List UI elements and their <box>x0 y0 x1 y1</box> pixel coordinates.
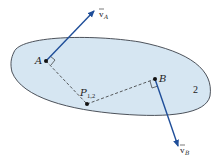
point-p12 <box>85 102 89 106</box>
point-b <box>153 77 157 81</box>
rigid-body-2 <box>11 37 210 115</box>
label-p-subscript: 1,2 <box>87 92 95 99</box>
label-vb-subscript: B <box>184 149 190 156</box>
instant-center-diagram: A B P 1,2 2 v A v B <box>0 0 219 162</box>
label-p: P <box>79 87 87 98</box>
label-va-subscript: A <box>103 13 109 20</box>
label-a: A <box>34 55 42 66</box>
label-b: B <box>158 73 166 84</box>
point-a <box>44 59 48 63</box>
label-body-2: 2 <box>193 84 198 95</box>
